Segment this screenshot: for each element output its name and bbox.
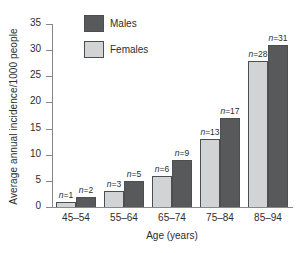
y-tick-mark	[46, 129, 52, 131]
x-category-label: 45–54	[52, 212, 100, 223]
bar-females-75-84	[200, 139, 220, 207]
bar-count-label: n=31	[258, 34, 298, 43]
y-tick-label: 25	[11, 70, 41, 80]
y-tick-mark	[46, 50, 52, 52]
y-tick-label: 15	[11, 123, 41, 133]
legend-swatch-females	[84, 41, 104, 58]
bar-count-label: n=9	[162, 149, 202, 158]
x-category-label: 55–64	[100, 212, 148, 223]
y-tick-label: 5	[11, 175, 41, 185]
bar-females-85-94	[248, 61, 268, 207]
y-tick-mark	[46, 207, 52, 209]
bar-females-45-54	[56, 202, 76, 207]
y-tick-label: 0	[11, 201, 41, 211]
legend-item-males: Males	[84, 15, 148, 32]
x-category-label: 65–74	[148, 212, 196, 223]
legend-label: Males	[110, 18, 137, 29]
legend-item-females: Females	[84, 41, 148, 58]
x-category-label: 85–94	[244, 212, 292, 223]
legend-swatch-males	[84, 15, 104, 32]
y-tick-label: 10	[11, 149, 41, 159]
y-tick-mark	[46, 155, 52, 157]
y-tick-mark	[46, 76, 52, 78]
legend: MalesFemales	[84, 15, 148, 67]
bar-chart-figure: Average annual incidence/1000 people 051…	[0, 0, 308, 253]
bar-males-85-94	[268, 45, 288, 207]
y-tick-mark	[46, 102, 52, 104]
x-category-label: 75–84	[196, 212, 244, 223]
bar-count-label: n=17	[210, 107, 250, 116]
y-tick-label: 20	[11, 96, 41, 106]
bar-males-65-74	[172, 160, 192, 207]
bar-males-55-64	[124, 181, 144, 207]
y-tick-mark	[46, 181, 52, 183]
bar-females-65-74	[152, 176, 172, 207]
y-tick-label: 30	[11, 44, 41, 54]
bar-females-55-64	[104, 191, 124, 207]
legend-label: Females	[110, 44, 148, 55]
bar-males-75-84	[220, 118, 240, 207]
x-axis-title: Age (years)	[112, 230, 232, 241]
y-tick-label: 35	[11, 18, 41, 28]
bar-males-45-54	[76, 197, 96, 207]
y-tick-mark	[46, 24, 52, 26]
